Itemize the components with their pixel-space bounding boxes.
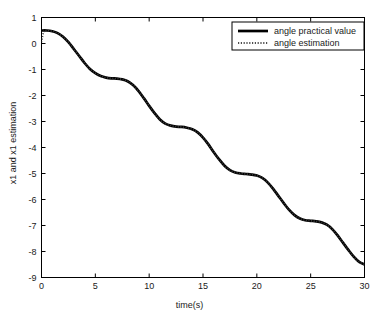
x-axis-label: time(s) xyxy=(0,300,379,310)
y-tick-label: -4 xyxy=(28,143,36,153)
chart-figure: x1 and x1 estimation time(s) 05101520253… xyxy=(0,0,379,320)
y-axis-label: x1 and x1 estimation xyxy=(8,73,18,213)
x-tick-label: 30 xyxy=(359,281,369,291)
y-tick-label: -6 xyxy=(28,195,36,205)
plot-area: 05101520253010-1-2-3-4-5-6-7-8-9angle pr… xyxy=(0,0,379,320)
x-tick-label: 15 xyxy=(198,281,208,291)
y-tick-label: -9 xyxy=(28,273,36,283)
x-tick-label: 5 xyxy=(93,281,98,291)
y-tick-label: -3 xyxy=(28,117,36,127)
y-tick-label: -2 xyxy=(28,91,36,101)
legend-label-2: angle estimation xyxy=(274,38,340,48)
y-tick-label: -1 xyxy=(28,65,36,75)
legend-label-1: angle practical value xyxy=(274,26,356,36)
plot-frame xyxy=(42,18,365,278)
x-tick-label: 0 xyxy=(39,281,44,291)
y-tick-label: 0 xyxy=(31,39,36,49)
y-tick-label: -7 xyxy=(28,221,36,231)
y-tick-label: -5 xyxy=(28,169,36,179)
y-tick-label: -8 xyxy=(28,247,36,257)
x-tick-label: 25 xyxy=(306,281,316,291)
x-tick-label: 20 xyxy=(252,281,262,291)
y-tick-label: 1 xyxy=(31,13,36,23)
x-tick-label: 10 xyxy=(144,281,154,291)
